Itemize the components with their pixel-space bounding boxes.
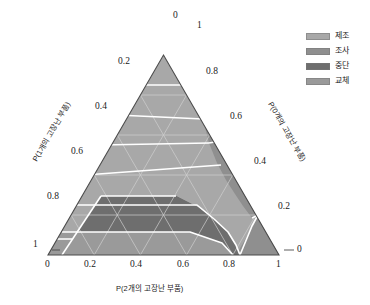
left-tick-0-6: 0.6: [71, 147, 83, 157]
right-tick-1: 1: [197, 21, 202, 31]
bottom-tick-0: 0: [45, 260, 50, 270]
right-tick-0-2: 0.2: [278, 202, 290, 212]
legend-swatch-jejo: [306, 33, 330, 40]
bottom-tick-0-4: 0.4: [130, 260, 142, 270]
legend-item-jejo[interactable]: 제조: [306, 29, 366, 43]
legend-swatch-jungdan: [306, 63, 330, 70]
left-tick-0-4: 0.4: [95, 102, 107, 112]
legend-item-jungdan[interactable]: 중단: [306, 59, 366, 73]
right-tick-0: 0: [297, 245, 302, 255]
left-tick-0-8: 0.8: [47, 192, 59, 202]
right-tick-0-6: 0.6: [230, 112, 242, 122]
bottom-tick-0-2: 0.2: [84, 260, 96, 270]
right-tick-0-8: 0.8: [206, 67, 218, 77]
legend-label-gyoche: 교체: [335, 77, 349, 85]
legend-swatch-gyoche: [306, 78, 330, 85]
legend-item-josa[interactable]: 조사: [306, 44, 366, 58]
bottom-tick-0-6: 0.6: [177, 260, 189, 270]
legend-swatch-josa: [306, 48, 330, 55]
bottom-tick-1: 1: [276, 260, 281, 270]
left-tick-1: 1: [33, 240, 38, 250]
legend-label-jungdan: 중단: [335, 62, 349, 70]
legend-label-josa: 조사: [335, 47, 349, 55]
legend-item-gyoche[interactable]: 교체: [306, 74, 366, 88]
legend-label-jejo: 제조: [335, 32, 349, 40]
legend: 제조 조사 중단 교체: [306, 29, 366, 89]
bottom-axis-title: P(2개의 고장난 부품): [116, 285, 183, 293]
left-tick-0: 0: [173, 11, 178, 21]
left-tick-0-2: 0.2: [118, 57, 130, 67]
bottom-tick-0-8: 0.8: [223, 260, 235, 270]
right-tick-0-4: 0.4: [254, 157, 266, 167]
ternary-plot-figure: 0 0.2 0.4 0.6 0.8 1 0 0.2 0.4 0.6 0.8 1 …: [0, 0, 370, 305]
